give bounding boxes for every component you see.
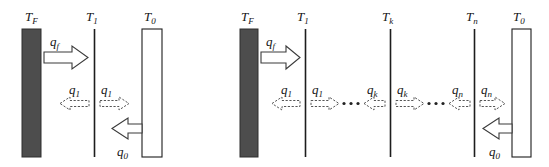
right-t1-label: T1 <box>297 9 309 26</box>
right-qk-right-label: qk <box>397 82 409 99</box>
right-q0-label: q0 <box>489 144 501 161</box>
right-tf-label: TF <box>241 9 254 26</box>
right-ellipsis-1 <box>342 102 359 105</box>
right-q0-arrow-left-icon <box>483 118 512 139</box>
left-t0-label: T0 <box>144 9 156 26</box>
left-t0-light-wall <box>142 29 162 157</box>
right-tn-label: Tn <box>466 9 478 26</box>
right-qk-left-label: qk <box>367 82 379 99</box>
right-qk-arrow-right-icon <box>396 97 424 110</box>
left-qf-label: qf <box>50 34 61 51</box>
left-q1-arrow-left-icon <box>60 97 89 110</box>
left-tf-dark-wall <box>22 29 41 157</box>
left-panel: TF T1 T0 qf q1 <box>22 9 162 161</box>
right-q1-arrow-right-icon <box>311 97 339 110</box>
right-t0-label: T0 <box>513 9 525 26</box>
left-q1-arrow-right-icon <box>100 97 129 110</box>
right-qn-arrow-right-icon <box>480 97 505 110</box>
right-ellipsis-2 <box>427 102 444 105</box>
right-panel: TF T1 Tk Tn T0 <box>240 9 531 161</box>
left-qf-arrow-right-icon <box>44 46 88 69</box>
left-q1-left-label: q1 <box>69 82 80 99</box>
radiation-shield-figure: TF T1 T0 qf q1 <box>0 0 549 167</box>
right-qf-arrow-right-icon <box>261 46 300 69</box>
left-tf-label: TF <box>25 9 38 26</box>
right-q1-right-label: q1 <box>312 82 323 99</box>
right-tf-dark-wall <box>240 29 258 157</box>
right-qn-left-label: qn <box>452 82 464 99</box>
right-q1-left-label: q1 <box>281 82 292 99</box>
left-q1-right-label: q1 <box>101 82 112 99</box>
right-qn-right-label: qn <box>481 82 493 99</box>
right-t0-light-wall <box>512 29 531 157</box>
left-q0-label: q0 <box>117 144 129 161</box>
right-q1-arrow-left-icon <box>272 97 300 110</box>
right-qf-label: qf <box>266 34 277 51</box>
left-t1-label: T1 <box>86 9 98 26</box>
left-q0-arrow-left-icon <box>112 118 142 139</box>
right-tk-label: Tk <box>382 9 394 26</box>
